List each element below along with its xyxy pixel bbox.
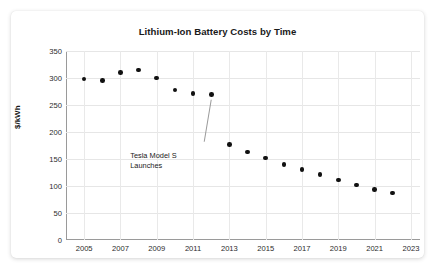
gridline-vertical <box>411 51 412 240</box>
x-tick-label: 2015 <box>257 244 274 253</box>
y-tick-label: 200 <box>49 128 62 137</box>
annotation-line-2: Launches <box>130 161 176 172</box>
gridline-vertical <box>375 51 376 240</box>
data-point <box>191 91 196 96</box>
data-point <box>173 88 178 93</box>
gridline-vertical <box>266 51 267 240</box>
x-axis-line <box>66 239 420 240</box>
chart-title: Lithium-Ion Battery Costs by Time <box>11 26 424 37</box>
gridline-vertical <box>193 51 194 240</box>
gridline-vertical <box>120 51 121 240</box>
data-point <box>372 187 377 192</box>
gridline-horizontal <box>66 78 420 79</box>
x-tick-label: 2005 <box>76 244 93 253</box>
annotation-line-1: Tesla Model S <box>130 151 176 162</box>
data-point <box>390 191 395 196</box>
data-point <box>154 76 159 81</box>
gridline-vertical <box>302 51 303 240</box>
x-tick-label: 2021 <box>366 244 383 253</box>
data-point <box>136 68 141 73</box>
annotation-leader-line <box>66 51 420 240</box>
data-point <box>300 167 305 172</box>
x-axis-tick-labels: 2005200720092011201320152017201920212023 <box>66 244 420 258</box>
data-point <box>82 77 87 82</box>
data-point <box>209 92 214 97</box>
screenshot-root: Lithium-Ion Battery Costs by Time $/kWh … <box>0 0 440 273</box>
data-point <box>282 162 287 167</box>
data-point <box>118 70 123 75</box>
plot-area: Tesla Model SLaunches <box>66 51 420 240</box>
x-tick-label: 2023 <box>402 244 419 253</box>
gridline-horizontal <box>66 159 420 160</box>
chart-card: Lithium-Ion Battery Costs by Time $/kWh … <box>11 11 424 258</box>
data-point <box>263 156 268 161</box>
y-tick-label: 350 <box>49 47 62 56</box>
y-axis-title: $/kWh <box>13 105 22 129</box>
y-tick-label: 250 <box>49 101 62 110</box>
data-point <box>336 178 341 183</box>
gridline-horizontal <box>66 213 420 214</box>
data-point <box>100 78 105 83</box>
data-point <box>245 150 250 155</box>
gridline-horizontal <box>66 132 420 133</box>
gridline-horizontal <box>66 105 420 106</box>
y-tick-label: 100 <box>49 182 62 191</box>
x-tick-label: 2017 <box>294 244 311 253</box>
x-tick-label: 2013 <box>221 244 238 253</box>
x-tick-label: 2009 <box>148 244 165 253</box>
data-point <box>354 183 359 188</box>
data-point <box>318 172 323 177</box>
y-axis-tick-labels: 050100150200250300350 <box>33 51 62 240</box>
data-point <box>227 142 232 147</box>
gridline-horizontal <box>66 51 420 52</box>
y-tick-label: 150 <box>49 155 62 164</box>
gridline-vertical <box>338 51 339 240</box>
x-tick-label: 2019 <box>330 244 347 253</box>
y-tick-label: 50 <box>54 209 62 218</box>
y-tick-label: 0 <box>58 236 62 245</box>
x-tick-label: 2011 <box>185 244 201 253</box>
x-tick-label: 2007 <box>112 244 129 253</box>
gridline-horizontal <box>66 186 420 187</box>
annotation-label: Tesla Model SLaunches <box>130 151 176 172</box>
y-tick-label: 300 <box>49 74 62 83</box>
y-axis-line <box>66 51 67 240</box>
